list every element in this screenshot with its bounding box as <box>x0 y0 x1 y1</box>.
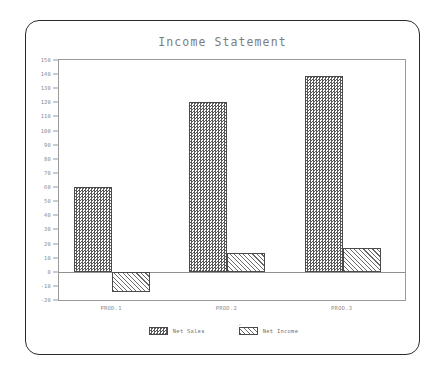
legend-item-net-sales: Net Sales <box>149 327 205 335</box>
y-axis-tick-label: 150 <box>41 57 51 63</box>
y-axis-tick-label: 70 <box>44 170 51 176</box>
legend: ↗ Net SalesNet Income <box>26 327 421 335</box>
x-axis-category-label: PROD.1 <box>100 305 121 311</box>
y-axis-tick-label: 120 <box>41 99 51 105</box>
legend-item-net-income: Net Income <box>239 327 298 335</box>
legend-swatch-diagonal-hatch <box>239 327 258 335</box>
bar-net-income-prod.2 <box>227 253 265 271</box>
x-axis-category-label: PROD.2 <box>216 305 237 311</box>
bar-net-sales-prod.1 <box>74 187 112 272</box>
y-axis-tick-label: 20 <box>44 241 51 247</box>
y-axis-tick-label: 130 <box>41 85 51 91</box>
chart-frame: Income Statement 15014013012011010090807… <box>25 20 420 355</box>
y-axis-tick-label: 140 <box>41 71 51 77</box>
legend-swatch-checkerboard <box>149 327 168 335</box>
y-axis-tick-label: 10 <box>44 255 51 261</box>
y-axis: 1501401301201101009080706050403020100-10… <box>26 59 58 301</box>
y-axis-tick-label: 60 <box>44 184 51 190</box>
bar-net-sales-prod.2 <box>189 102 227 271</box>
y-axis-tick-label: 80 <box>44 156 51 162</box>
plot-area <box>58 59 406 301</box>
x-axis-category-label: PROD.3 <box>331 305 352 311</box>
bar-net-income-prod.3 <box>343 248 381 272</box>
x-axis-labels: PROD.1PROD.2PROD.3 <box>58 305 406 319</box>
y-axis-tick-label: -20 <box>41 297 51 303</box>
y-axis-tick-label: 90 <box>44 142 51 148</box>
y-axis-tick-label: 40 <box>44 212 51 218</box>
zero-baseline <box>59 272 405 273</box>
page-title: Income Statement <box>26 35 419 49</box>
legend-label: Net Sales <box>173 328 205 334</box>
y-axis-tick-label: 100 <box>41 128 51 134</box>
y-axis-tick-label: 50 <box>44 198 51 204</box>
y-axis-tick-label: 110 <box>41 113 51 119</box>
bar-net-sales-prod.3 <box>305 76 343 272</box>
y-axis-tick-label: -10 <box>41 283 51 289</box>
legend-label: Net Income <box>263 328 298 334</box>
y-axis-tick-label: 30 <box>44 226 51 232</box>
y-axis-tick-label: 0 <box>48 269 51 275</box>
bar-net-income-prod.1 <box>112 272 150 292</box>
